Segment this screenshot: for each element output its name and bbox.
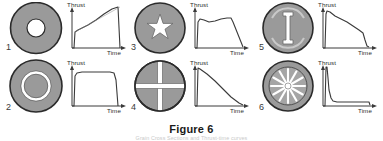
y-axis-label-2: Thrust: [67, 59, 85, 66]
x-axis-label-6: Time: [358, 107, 372, 114]
x-axis-label-1: Time: [107, 49, 121, 56]
grain-cross-section-6: [259, 59, 317, 117]
x-axis-arrow-2: [121, 104, 126, 108]
thrust-curve-1: [72, 7, 120, 48]
x-axis-label-2: Time: [107, 107, 121, 114]
y-axis-label-6: Thrust: [318, 59, 336, 66]
thrust-time-plot-1: Thrust Time: [63, 2, 129, 58]
x-axis-label-5: Time: [358, 49, 372, 56]
thrust-curve-5: [323, 11, 369, 48]
cruciform-slot-horizontal-4: [135, 84, 185, 89]
grain-cross-section-1: [6, 2, 66, 58]
x-axis-arrow-1: [121, 46, 126, 50]
x-axis-arrow-3: [244, 46, 249, 50]
thrust-guide-line-1: [75, 7, 120, 32]
figure-caption: Figure 6: [0, 123, 383, 135]
center-hub-6: [285, 83, 291, 89]
x-axis-label-4: Time: [230, 107, 244, 114]
grain-cross-section-5: [259, 2, 317, 58]
y-axis-label-1: Thrust: [67, 1, 85, 8]
grain-index-3: 3: [131, 43, 136, 52]
grain-index-6: 6: [259, 103, 264, 112]
thrust-time-plot-2: Thrust Time: [63, 60, 129, 116]
y-axis-label-3: Thrust: [190, 1, 208, 8]
x-axis-arrow-5: [372, 46, 377, 50]
x-axis-arrow-4: [244, 104, 249, 108]
thrust-time-plot-3: Thrust Time: [186, 2, 252, 58]
figure-subcaption: Grain Cross Sections and Thrust-time cur…: [0, 135, 383, 141]
grain-cross-section-2: [6, 59, 66, 117]
circular-port-1: [27, 19, 45, 37]
propellant-disc-2: [10, 60, 62, 112]
grain-cross-section-3: [131, 2, 189, 58]
grain-index-1: 1: [6, 43, 11, 52]
thrust-time-plot-4: Thrust Time: [186, 60, 252, 116]
grain-cross-section-4: [131, 59, 189, 117]
y-axis-label-5: Thrust: [318, 1, 336, 8]
thrust-curve-3: [195, 18, 243, 48]
y-axis-label-4: Thrust: [190, 59, 208, 66]
x-axis-label-3: Time: [230, 49, 244, 56]
grain-index-5: 5: [259, 43, 264, 52]
thrust-time-plot-6: Thrust Time: [314, 60, 382, 116]
thrust-time-plot-5: Thrust Time: [314, 2, 382, 58]
thrust-curve-2: [72, 72, 118, 106]
thrust-curve-6: [323, 67, 370, 106]
grain-index-2: 2: [6, 103, 11, 112]
thrust-curve-4: [195, 68, 243, 106]
figure-6-container: 1 Thrust Time: [0, 0, 383, 141]
x-axis-arrow-6: [372, 104, 377, 108]
grain-index-4: 4: [131, 103, 136, 112]
